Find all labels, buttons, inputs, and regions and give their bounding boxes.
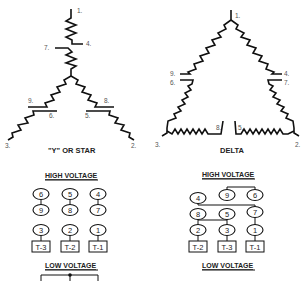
lead-t1: T-1 xyxy=(250,243,261,252)
star-title: "Y" OR STAR xyxy=(48,146,96,155)
lead-t2: T-2 xyxy=(193,243,204,252)
terminal-5: 5 xyxy=(68,190,72,199)
star-diagram xyxy=(8,9,134,140)
terminal-3: 3 xyxy=(225,226,229,235)
terminal-4: 4 xyxy=(196,194,200,203)
terminal-5: 5 xyxy=(225,210,229,219)
terminal-9: 9 xyxy=(225,191,229,200)
delta-label-1: 1. xyxy=(235,12,241,19)
terminal-3: 3 xyxy=(39,226,43,235)
terminal-9: 9 xyxy=(39,206,43,215)
wiring-diagram: 1. 4. 7. 9. 6. 8. 5. 3. 2. "Y" OR STAR 1… xyxy=(0,0,306,281)
terminal-1: 1 xyxy=(96,226,100,235)
delta-label-5: 5. xyxy=(238,124,244,131)
terminal-6: 6 xyxy=(39,190,43,199)
star-label-6: 6. xyxy=(49,112,55,119)
delta-label-7: 7. xyxy=(284,79,290,86)
star-label-8: 8. xyxy=(104,97,110,104)
lead-t2: T-2 xyxy=(65,243,76,252)
terminal-7: 7 xyxy=(253,208,257,217)
delta-high-voltage-label: HIGH VOLTAGE xyxy=(202,171,255,178)
delta-label-8: 8. xyxy=(216,124,222,131)
terminal-1: 1 xyxy=(253,226,257,235)
delta-low-voltage-label: LOW VOLTAGE xyxy=(202,262,253,269)
star-label-2: 2. xyxy=(131,142,137,149)
star-terminal-block: HIGH VOLTAGE 6 5 4 9 8 7 3 2 1 T-3 T-2 T… xyxy=(32,172,107,281)
delta-label-3: 3. xyxy=(155,141,161,148)
delta-terminal-block: HIGH VOLTAGE 4 9 6 8 5 7 2 3 1 T-2 T xyxy=(189,171,264,270)
lead-t1: T-1 xyxy=(93,243,104,252)
terminal-2: 2 xyxy=(196,226,200,235)
star-high-voltage-label: HIGH VOLTAGE xyxy=(45,172,98,179)
delta-label-9: 9. xyxy=(170,70,176,77)
star-label-4: 4. xyxy=(86,40,92,47)
delta-label-6: 6. xyxy=(170,79,176,86)
delta-label-4: 4. xyxy=(284,70,290,77)
lead-t3: T-3 xyxy=(222,243,233,252)
delta-diagram xyxy=(162,10,299,136)
delta-label-2: 2. xyxy=(295,141,301,148)
delta-title: DELTA xyxy=(220,146,244,155)
star-label-5: 5. xyxy=(85,112,91,119)
star-low-voltage-label: LOW VOLTAGE xyxy=(45,262,96,269)
star-label-7: 7. xyxy=(44,44,50,51)
star-label-9: 9. xyxy=(28,97,34,104)
terminal-6: 6 xyxy=(253,191,257,200)
star-label-3: 3. xyxy=(5,142,11,149)
terminal-4: 4 xyxy=(96,190,100,199)
terminal-8: 8 xyxy=(68,206,72,215)
star-label-1: 1. xyxy=(77,7,83,14)
terminal-8: 8 xyxy=(196,210,200,219)
terminal-2: 2 xyxy=(68,226,72,235)
terminal-7: 7 xyxy=(96,206,100,215)
lead-t3: T-3 xyxy=(36,243,47,252)
